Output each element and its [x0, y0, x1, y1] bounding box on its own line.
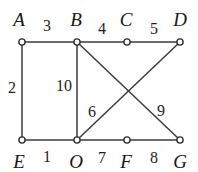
graph-node-c[interactable]	[124, 39, 130, 45]
graph-node-a[interactable]	[19, 39, 25, 45]
edge-layer	[22, 42, 180, 140]
graph-node-f[interactable]	[124, 137, 130, 143]
edge-weight-o-f: 7	[98, 150, 106, 166]
edge-weight-b-o: 10	[56, 78, 72, 94]
vertex-label-e: E	[13, 152, 25, 171]
vertex-label-a: A	[13, 10, 25, 29]
edge-weight-a-e: 2	[8, 80, 16, 96]
graph-node-d[interactable]	[177, 39, 183, 45]
edge-weight-f-g: 8	[150, 150, 158, 166]
vertex-label-g: G	[173, 152, 187, 171]
edge-weight-o-d: 6	[88, 104, 96, 120]
graph-node-e[interactable]	[19, 137, 25, 143]
vertex-label-b: B	[70, 10, 82, 29]
vertex-label-c: C	[120, 10, 133, 29]
edge-weight-c-d: 5	[150, 21, 158, 37]
vertex-label-o: O	[69, 152, 83, 171]
graph-figure: ABCDEOFG34521069178	[0, 0, 198, 172]
graph-node-o[interactable]	[74, 137, 80, 143]
edge-weight-b-g: 9	[157, 103, 165, 119]
graph-node-g[interactable]	[177, 137, 183, 143]
node-layer	[19, 39, 183, 143]
vertex-label-f: F	[120, 152, 132, 171]
edge-weight-e-o: 1	[43, 149, 51, 165]
graph-node-b[interactable]	[74, 39, 80, 45]
edge-weight-b-c: 4	[98, 21, 106, 37]
vertex-label-d: D	[173, 10, 187, 29]
edge-weight-a-b: 3	[43, 18, 51, 34]
